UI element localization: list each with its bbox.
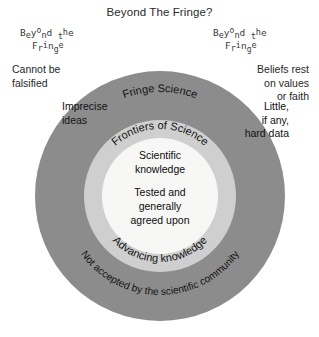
annotation-imprecise-ideas: Imprecise ideas	[62, 100, 108, 127]
fringe-science-diagram: Fringe Science Not accepted by the scien…	[0, 0, 319, 337]
annotation-little-hard-data: Little, if any, hard data	[245, 100, 289, 141]
center-group-knowledge: Scientific knowledge	[102, 148, 218, 176]
annotation-beliefs-rest: Beliefs rest on values or faith	[257, 63, 309, 104]
center-scientific-knowledge-text: Scientific knowledge Tested and generall…	[102, 148, 218, 227]
center-line-1: knowledge	[102, 162, 218, 176]
annotation-little-hard-data-line-2: hard data	[245, 127, 289, 141]
annotation-cannot-be-falsified: Cannot be falsified	[12, 63, 60, 90]
center-group-tested: Tested and generally agreed upon	[102, 185, 218, 227]
annotation-beliefs-rest-line-0: Beliefs rest	[257, 63, 309, 77]
annotation-imprecise-ideas-line-1: ideas	[62, 114, 108, 128]
fringe-stamp-left: Beyond the Fringe	[20, 27, 74, 53]
annotation-little-hard-data-line-1: if any,	[245, 114, 289, 128]
annotation-imprecise-ideas-line-0: Imprecise	[62, 100, 108, 114]
annotation-little-hard-data-line-0: Little,	[245, 100, 289, 114]
fringe-stamp-left-line2: Fringe	[20, 40, 74, 53]
annotation-beliefs-rest-line-1: on values	[257, 77, 309, 91]
page-title: Beyond The Fringe?	[0, 6, 319, 18]
center-line-3: generally	[102, 199, 218, 213]
fringe-stamp-right: Beyond the Fringe	[213, 27, 267, 53]
center-line-0: Scientific	[102, 148, 218, 162]
annotation-cannot-be-falsified-line-1: falsified	[12, 77, 60, 91]
center-line-2: Tested and	[102, 185, 218, 199]
fringe-stamp-right-line2: Fringe	[213, 40, 267, 53]
center-line-4: agreed upon	[102, 213, 218, 227]
annotation-cannot-be-falsified-line-0: Cannot be	[12, 63, 60, 77]
